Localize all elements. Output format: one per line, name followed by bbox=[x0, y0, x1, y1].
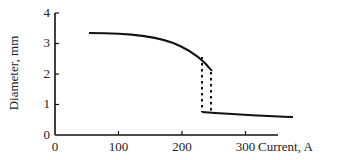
chart: 4 3 2 1 0 0 100 200 300 Diameter, mm Cur… bbox=[0, 0, 341, 160]
y-tick-label: 1 bbox=[38, 96, 50, 112]
y-tick-label: 2 bbox=[38, 66, 50, 82]
y-tick-label: 0 bbox=[38, 127, 50, 143]
x-tick-label: 200 bbox=[172, 139, 192, 155]
y-axis-label: Diameter, mm bbox=[6, 35, 22, 110]
y-tick-label: 4 bbox=[38, 5, 50, 21]
y-tick-label: 3 bbox=[38, 35, 50, 51]
plot-area bbox=[0, 0, 341, 160]
x-axis-label: Current, A bbox=[258, 139, 313, 155]
x-tick-label: 100 bbox=[109, 139, 129, 155]
lower-branch-curve bbox=[202, 112, 293, 117]
upper-branch-curve bbox=[89, 33, 212, 71]
x-tick-label: 0 bbox=[52, 139, 59, 155]
y-axis-label-box: Diameter, mm bbox=[2, 0, 26, 145]
x-tick-label: 300 bbox=[236, 139, 256, 155]
